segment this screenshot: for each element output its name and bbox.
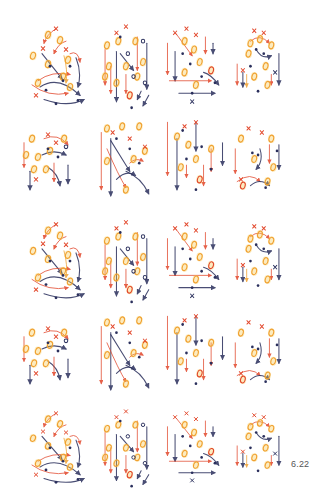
offense-player-o-icon (66, 463, 73, 471)
defense-player-x-icon (247, 126, 251, 130)
player-dot-icon (257, 284, 260, 287)
route-arrow (126, 365, 149, 387)
defense-player-x-icon (115, 415, 119, 419)
offense-player-o-icon (181, 68, 188, 77)
defense-player-x-icon (173, 415, 177, 419)
player-dot-icon (255, 48, 258, 51)
play-diagram (158, 108, 232, 206)
player-dot-icon (257, 154, 260, 157)
player-dot-icon (45, 283, 48, 286)
player-dot-icon (69, 65, 72, 68)
offense-player-o-icon (247, 234, 254, 243)
offense-player-o-icon (196, 369, 203, 378)
play-diagram-grid (0, 0, 317, 491)
defense-player-x-icon (111, 324, 115, 328)
offense-player-o-icon (56, 36, 63, 45)
player-dot-icon (62, 79, 65, 82)
defense-player-x-icon (173, 31, 177, 35)
player-dot-icon (255, 431, 258, 434)
defense-player-x-icon (241, 450, 245, 454)
play-diagram (88, 108, 162, 206)
player-dot-icon (115, 137, 118, 140)
offense-player-o-icon (22, 344, 29, 353)
offense-player-o-icon (104, 318, 111, 327)
player-dot-icon (77, 478, 80, 481)
defense-player-x-icon (54, 27, 58, 31)
route-arrow (76, 58, 80, 87)
offense-player-o-icon (102, 267, 109, 276)
offense-player-o-icon (44, 415, 51, 423)
player-dot-icon (249, 260, 252, 263)
player-dot-icon (138, 162, 141, 165)
offense-player-o-icon (257, 35, 264, 44)
offense-player-o-icon (130, 349, 137, 358)
offense-player-o-icon (102, 453, 109, 461)
player-dot-icon (128, 147, 131, 150)
offense-player-o-icon (34, 78, 41, 87)
player-circle-icon (141, 235, 144, 239)
offense-player-o-icon (29, 246, 36, 255)
offense-player-o-icon (270, 163, 277, 172)
offense-player-o-icon (181, 263, 188, 272)
offense-player-o-icon (268, 328, 275, 337)
offense-player-o-icon (126, 91, 133, 100)
player-dot-icon (249, 65, 252, 68)
defense-player-x-icon (183, 124, 187, 128)
offense-player-o-icon (132, 232, 139, 241)
defense-player-x-icon (252, 29, 256, 33)
offense-player-o-icon (42, 165, 49, 174)
player-dot-icon (49, 260, 52, 263)
offense-player-o-icon (140, 253, 147, 262)
player-dot-icon (195, 382, 198, 385)
offense-player-o-icon (64, 250, 71, 259)
offense-player-o-icon (123, 444, 130, 452)
page-number: 6.22 (291, 459, 309, 469)
play-diagram (88, 398, 162, 490)
player-circle-icon (141, 423, 144, 426)
defense-player-x-icon (241, 263, 245, 267)
player-dot-icon (47, 147, 50, 150)
offense-player-o-icon (181, 449, 188, 457)
player-dot-icon (262, 52, 265, 55)
defense-player-x-icon (247, 320, 251, 324)
offense-player-o-icon (174, 326, 181, 335)
player-circle-icon (126, 435, 129, 438)
defense-player-x-icon (194, 228, 198, 232)
route-arrow (76, 253, 80, 282)
offense-player-o-icon (270, 357, 277, 366)
play-diagram (158, 398, 232, 490)
offense-player-o-icon (136, 122, 143, 131)
offense-player-o-icon (245, 49, 252, 58)
player-dot-icon (57, 350, 60, 353)
route-arrow (107, 149, 126, 188)
player-dot-icon (257, 348, 260, 351)
player-dot-icon (138, 356, 141, 359)
defense-player-x-icon (185, 27, 189, 31)
defense-player-x-icon (115, 226, 119, 230)
offense-player-o-icon (132, 421, 139, 429)
player-dot-icon (200, 456, 203, 459)
offense-player-o-icon (34, 347, 41, 356)
player-dot-icon (214, 276, 217, 279)
defense-player-x-icon (124, 220, 128, 224)
defense-player-x-icon (64, 431, 68, 435)
offense-player-o-icon (123, 62, 130, 71)
player-dot-icon (181, 129, 184, 132)
offense-player-o-icon (130, 155, 137, 164)
offense-player-o-icon (239, 375, 246, 384)
play-diagram (222, 208, 296, 306)
offense-player-o-icon (30, 165, 37, 174)
defense-player-x-icon (194, 417, 198, 421)
route-arrow (137, 91, 141, 99)
offense-player-o-icon (22, 150, 29, 159)
offense-player-o-icon (245, 244, 252, 253)
play-diagram (158, 302, 232, 400)
defense-player-x-icon (262, 226, 266, 230)
defense-player-x-icon (41, 46, 45, 50)
defense-player-x-icon (260, 324, 264, 328)
offense-player-o-icon (191, 428, 198, 436)
route-arrow (143, 290, 149, 300)
player-dot-icon (195, 188, 198, 191)
player-dot-icon (257, 90, 260, 93)
offense-player-o-icon (177, 357, 184, 366)
